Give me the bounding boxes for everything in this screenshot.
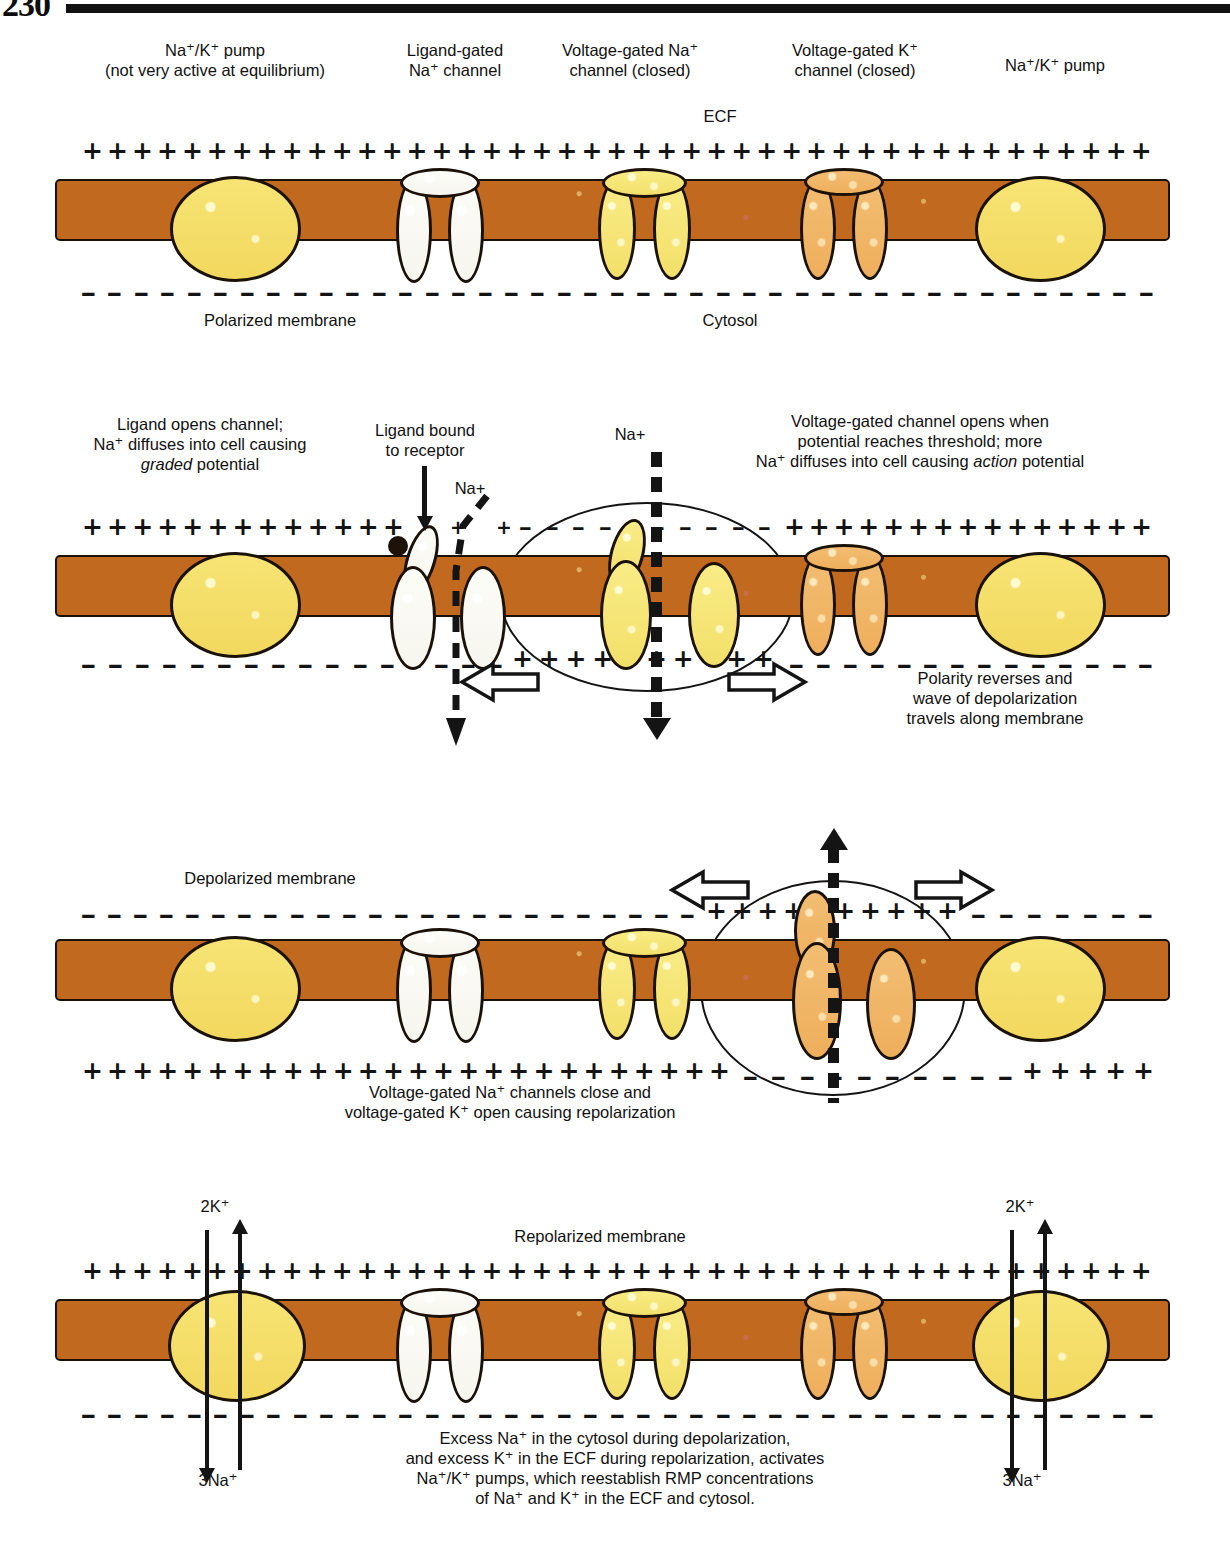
- caption-line-1: Voltage-gated Na⁺ channels close and: [280, 1082, 740, 1102]
- na-label-ligand-influx: Na+: [440, 478, 500, 498]
- note-line-2: to receptor: [330, 440, 520, 460]
- voltage-gated-na-channel-open: [596, 518, 748, 686]
- header-line-1: Na⁺/K⁺ pump: [55, 40, 375, 60]
- charge-row-inside-panel4: ––––––––––––––––––––––––––––––––––––––––…: [82, 1402, 1152, 1427]
- action-post: potential: [1017, 452, 1084, 470]
- k-influx-arrow-left-pump: [238, 1232, 242, 1470]
- note-line-3: Na⁺ diffuses into cell causing action po…: [700, 451, 1140, 471]
- na-k-pump-left: [168, 1290, 306, 1402]
- header-label-pump-right: Na⁺/K⁺ pump: [975, 55, 1135, 75]
- channel-funnel-top: [602, 1288, 687, 1318]
- ligand-pointer-arrow: [422, 466, 427, 518]
- ligand-gated-na-channel-closed: [396, 1288, 486, 1403]
- voltage-gated-k-channel-closed: [800, 168, 890, 280]
- action-pre: Na⁺ diffuses into cell causing: [756, 452, 974, 470]
- label-3na-right: 3Na⁺: [982, 1470, 1062, 1490]
- channel-lobe-left: [600, 560, 652, 670]
- note-voltage-gated-opens: Voltage-gated channel opens when potenti…: [700, 411, 1140, 471]
- charge-row-outside-right-panel3: –––––––: [972, 902, 1152, 927]
- label-2k-right: 2K⁺: [985, 1196, 1055, 1216]
- ligand-gated-na-channel-closed: [396, 928, 486, 1043]
- header-line-1: Voltage-gated Na⁺: [535, 40, 725, 60]
- note-line-1: Ligand bound: [330, 420, 520, 440]
- title-depolarized-membrane: Depolarized membrane: [125, 868, 415, 888]
- na-efflux-arrow-left-pump: [205, 1230, 209, 1470]
- repolarization-panel: Depolarized membrane –––––––––––––––––––…: [0, 810, 1230, 1140]
- na-k-pump-right: [975, 552, 1106, 658]
- channel-funnel-top: [400, 168, 480, 198]
- na-k-pump-right: [975, 936, 1106, 1042]
- channel-funnel-top: [804, 544, 884, 572]
- voltage-gated-na-channel-closed: [598, 168, 692, 280]
- na-influx-thick-dashed-arrow: [651, 452, 662, 720]
- header-label-na-channel: Voltage-gated Na⁺ channel (closed): [535, 40, 725, 80]
- action-italic: action: [973, 452, 1017, 470]
- note-line-2: potential reaches threshold; more: [700, 431, 1140, 451]
- charge-row-outside-panel4: ++++++++++++++++++++++++++++++++++++++++…: [82, 1258, 1152, 1283]
- note-line-1: Polarity reverses and: [830, 668, 1160, 688]
- note-ligand-opens-channel: Ligand opens channel; Na⁺ diffuses into …: [50, 414, 350, 474]
- voltage-gated-na-channel-closed: [598, 1288, 692, 1400]
- ligand-gated-na-channel-open: [388, 524, 508, 684]
- ligand-molecule-dot: [388, 536, 408, 556]
- charge-row-inside-left-panel3: ++++++++++++++++++++++++++: [82, 1058, 730, 1083]
- header-label-ligand-channel: Ligand-gated Na⁺ channel: [385, 40, 525, 80]
- graded-rest: potential: [192, 455, 259, 473]
- header-label-pump-left: Na⁺/K⁺ pump (not very active at equilibr…: [55, 40, 375, 80]
- ecf-label-panel1: ECF: [690, 106, 750, 126]
- header-line-2: (not very active at equilibrium): [55, 60, 375, 80]
- note-line-1: Voltage-gated channel opens when: [700, 411, 1140, 431]
- na-label-voltage-influx: Na+: [600, 424, 660, 444]
- charge-row-outside-left-panel3: ––––––––––––––––––––––––: [82, 902, 694, 927]
- channel-funnel-top: [804, 168, 884, 196]
- voltage-gated-k-channel-open: [782, 890, 922, 1070]
- voltage-gated-na-channel-closed: [598, 928, 692, 1040]
- caption-line-2: voltage-gated K⁺ open causing repolariza…: [280, 1102, 740, 1122]
- caption-line-4: of Na⁺ and K⁺ in the ECF and cytosol.: [290, 1488, 940, 1508]
- na-k-pump-right: [972, 1290, 1110, 1402]
- header-line-1: Voltage-gated K⁺: [760, 40, 950, 60]
- channel-lobe-left: [390, 566, 436, 670]
- na-efflux-arrow-right-pump: [1010, 1230, 1014, 1470]
- charge-row-inside-panel1: ––––––––––––––––––––––––––––––––––––––––…: [82, 280, 1152, 305]
- channel-funnel-top: [602, 928, 687, 958]
- note-line-1: Ligand opens channel;: [50, 414, 350, 434]
- header-line-2: channel (closed): [535, 60, 725, 80]
- caption-polarized-membrane: Polarized membrane: [160, 310, 400, 330]
- na-k-pump-left: [170, 176, 301, 282]
- na-k-pump-left: [170, 936, 301, 1042]
- header-label-k-channel: Voltage-gated K⁺ channel (closed): [760, 40, 950, 80]
- note-polarity-reverses: Polarity reverses and wave of depolariza…: [830, 668, 1160, 728]
- pump-restoration-panel: 2K⁺ 2K⁺ 3Na⁺ 3Na⁺ Repolarized membrane +…: [0, 1180, 1230, 1548]
- header-line-1: Na⁺/K⁺ pump: [975, 55, 1135, 75]
- k-influx-arrow-right-pump: [1043, 1232, 1047, 1470]
- caption-repolarization: Voltage-gated Na⁺ channels close and vol…: [280, 1082, 740, 1122]
- charge-row-inside-right-panel3: +++++: [1022, 1058, 1154, 1083]
- note-line-3: travels along membrane: [830, 708, 1160, 728]
- caption-line-3: Na⁺/K⁺ pumps, which reestablish RMP conc…: [290, 1468, 940, 1488]
- note-line-2: wave of depolarization: [830, 688, 1160, 708]
- label-2k-left: 2K⁺: [180, 1196, 250, 1216]
- charge-row-outside-right-panel2: +++++++++++++++: [784, 514, 1152, 539]
- channel-lobe-right: [688, 562, 740, 668]
- header-line-2: Na⁺ channel: [385, 60, 525, 80]
- channel-funnel-top: [400, 928, 480, 958]
- k-efflux-thick-dashed-arrow: [828, 848, 839, 1103]
- voltage-gated-k-channel-closed: [800, 1288, 890, 1400]
- header-line-1: Ligand-gated: [385, 40, 525, 60]
- channel-funnel-top: [602, 168, 687, 198]
- charge-row-outside-left-panel2: +++++++++++++: [82, 514, 404, 539]
- na-k-pump-right: [975, 176, 1106, 282]
- title-repolarized-membrane: Repolarized membrane: [440, 1226, 760, 1246]
- channel-lobe-right: [460, 566, 506, 670]
- graded-italic: graded: [141, 455, 192, 473]
- channel-lobe-right: [866, 948, 916, 1060]
- header-line-2: channel (closed): [760, 60, 950, 80]
- charge-row-outside-panel1: ++++++++++++++++++++++++++++++++++++++++…: [82, 138, 1152, 163]
- channel-funnel-top: [804, 1288, 884, 1316]
- note-line-2: Na⁺ diffuses into cell causing: [50, 434, 350, 454]
- polarized-membrane-panel: Na⁺/K⁺ pump (not very active at equilibr…: [0, 0, 1230, 340]
- cytosol-label-panel1: Cytosol: [680, 310, 780, 330]
- note-ligand-bound-to-receptor: Ligand bound to receptor: [330, 420, 520, 460]
- channel-funnel-top: [400, 1288, 480, 1318]
